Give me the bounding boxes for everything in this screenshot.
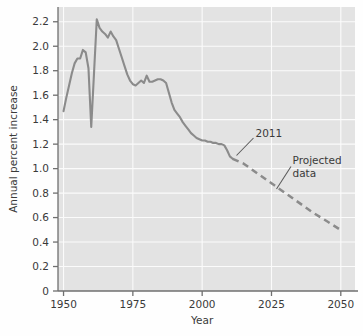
y-tick-label: 2.2 [32, 15, 49, 27]
y-tick-label: 1.0 [32, 162, 49, 174]
y-tick-label: 0.6 [32, 211, 49, 223]
x-tick-label: 2025 [258, 298, 285, 310]
x-tick-label: 2050 [327, 298, 354, 310]
x-tick-label: 2000 [189, 298, 216, 310]
chart-figure: 0 0.2 0.4 0.6 0.8 1.0 1.2 1.4 1.6 1.8 2.… [0, 0, 363, 336]
y-tick-label: 0.2 [32, 260, 49, 272]
y-tick-label: 1.6 [32, 89, 49, 101]
y-axis-title: Annual percent increase [7, 85, 19, 213]
y-tick-label: 1.8 [32, 64, 49, 76]
x-tick-label: 1950 [50, 298, 77, 310]
y-tick-label: 0 [42, 285, 49, 297]
y-tick-label: 2.0 [32, 40, 49, 52]
population-growth-line-chart: 0 0.2 0.4 0.6 0.8 1.0 1.2 1.4 1.6 1.8 2.… [0, 0, 363, 336]
annotation-projected-data-label-line2: data [293, 167, 317, 179]
y-tick-label: 0.4 [32, 236, 49, 248]
y-tick-label: 0.8 [32, 187, 49, 199]
y-tick-label: 1.4 [32, 113, 49, 125]
x-axis-title: Year [190, 314, 214, 326]
annotation-2011-label: 2011 [256, 127, 283, 139]
x-tick-label: 1975 [119, 298, 146, 310]
y-tick-label: 1.2 [32, 138, 49, 150]
annotation-projected-data-label-line1: Projected [293, 154, 342, 166]
plot-area-background [58, 7, 355, 291]
